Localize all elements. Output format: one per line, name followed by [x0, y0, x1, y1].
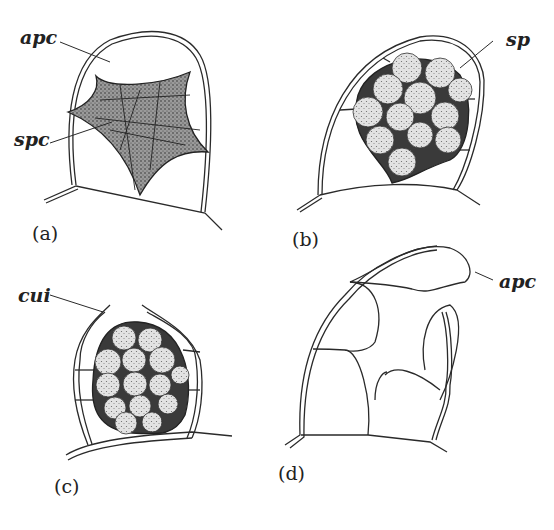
label-cui-c: cui	[18, 284, 51, 306]
panel-label-a: (a)	[32, 222, 58, 244]
label-apc-d: apc	[499, 270, 536, 292]
label-sp-b: sp	[506, 28, 530, 50]
panel-label-b: (b)	[292, 228, 319, 250]
panel-label-c: (c)	[54, 475, 79, 497]
label-apc-a: apc	[20, 26, 57, 48]
panel-b-drawing	[297, 36, 493, 212]
panel-d-drawing	[285, 246, 493, 452]
botanical-figure	[0, 0, 554, 530]
panel-a-drawing	[44, 32, 222, 230]
label-spc-a: spc	[14, 128, 50, 150]
panel-c-drawing	[50, 295, 232, 460]
panel-label-d: (d)	[278, 462, 305, 484]
spc-cell	[68, 72, 208, 195]
